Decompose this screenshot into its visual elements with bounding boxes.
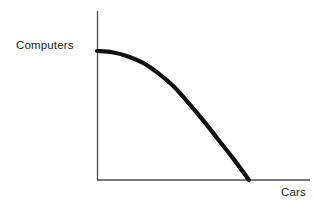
y-axis-label: Computers	[16, 39, 74, 51]
x-axis-label: Cars	[281, 186, 306, 198]
chart-canvas	[0, 0, 329, 203]
ppf-curve	[97, 51, 249, 180]
ppf-chart-figure: Computers Cars	[0, 0, 329, 203]
